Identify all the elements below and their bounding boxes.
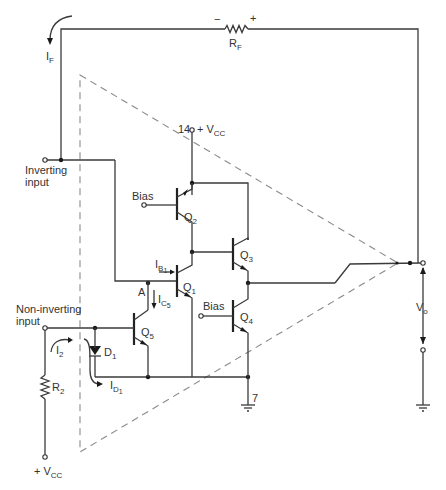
output-ground-icon	[416, 405, 430, 411]
diode-d1-icon	[89, 346, 101, 377]
supply-pin-label: + VCC	[197, 123, 225, 140]
q4-label: Q4	[240, 311, 253, 328]
output-wiring	[246, 261, 425, 285]
q3-label: Q3	[240, 249, 253, 266]
ground-pin-number: 7	[252, 392, 258, 404]
inverting-input-label: Invertinginput	[25, 164, 67, 188]
bottom-supply-label: + VCC	[34, 465, 62, 482]
feedback-current-label: IF	[46, 50, 54, 67]
q5-label: Q5	[141, 326, 154, 343]
d1-label: D1	[104, 346, 116, 363]
transistor-q1-icon	[177, 252, 192, 348]
output-voltage-indicator	[420, 267, 426, 405]
q1-label: Q1	[183, 281, 196, 298]
feedback-resistor-icon	[225, 26, 248, 33]
ic5-arrow-icon	[152, 290, 157, 309]
q4-bias-label: Bias	[203, 300, 224, 312]
r2-label: R2	[52, 381, 64, 398]
ic5-label: IC5	[158, 293, 171, 312]
output-voltage-label: Vo	[416, 301, 428, 318]
id1-label: ID1	[110, 379, 123, 398]
feedback-resistor-minus-label: −	[214, 13, 220, 25]
supply-pin-number: 14	[178, 123, 190, 135]
q2-bias-label: Bias	[132, 190, 153, 202]
noninverting-input-label: Non-invertinginput	[16, 303, 81, 327]
feedback-resistor-label: RF	[229, 37, 242, 54]
ib1-label: IB1	[155, 258, 167, 277]
q2-label: Q2	[184, 211, 197, 228]
feedback-resistor-plus-label: +	[250, 12, 256, 24]
schematic-canvas	[0, 0, 446, 490]
i2-label: I2	[56, 344, 64, 361]
node-a-label: A	[138, 286, 145, 298]
r2-resistor-icon	[41, 375, 49, 399]
